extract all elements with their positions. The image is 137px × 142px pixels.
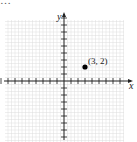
data-points: (3, 2)	[82, 56, 107, 70]
coordinate-plane: (3, 2) x y	[0, 0, 137, 142]
x-axis-label: x	[128, 80, 134, 91]
point-label: (3, 2)	[88, 56, 108, 66]
point-marker	[82, 64, 87, 69]
axes	[4, 12, 133, 140]
y-axis-label: y	[56, 11, 62, 22]
